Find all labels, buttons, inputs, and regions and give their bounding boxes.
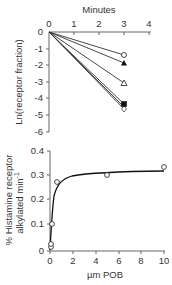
fit-curve — [50, 171, 164, 250]
bottom-x-tick: 4 — [93, 255, 98, 266]
top-y-tick: -6 — [35, 126, 43, 137]
bottom-y-tick: 0.2 — [31, 193, 44, 204]
bottom-y-tick: 0.1 — [31, 218, 44, 229]
top-x-tick: 3 — [121, 18, 126, 29]
top-y-axis-label: Ln(receptor fraction) — [13, 39, 24, 125]
svg-text:alkylated min-1: alkylated min-1 — [13, 172, 25, 234]
svg-text:% Histamine receptor: % Histamine receptor — [3, 155, 14, 246]
top-chart: Minutes 0 1 2 3 4 0 -1 -2 -3 -4 -5 -6 Ln… — [13, 4, 152, 137]
bottom-x-tick: 10 — [159, 255, 170, 266]
top-y-tick: -4 — [35, 92, 43, 103]
bottom-x-tick: 6 — [116, 255, 121, 266]
bottom-y-axis-label: % Histamine receptor alkylated min-1 — [3, 155, 25, 246]
bottom-x-tick: 8 — [138, 255, 143, 266]
open-triangle-marker — [121, 80, 127, 86]
bottom-data-points — [49, 165, 167, 250]
bottom-chart: 0.4 0.3 0.2 0.1 0 0 2 4 6 8 10 µm POB % … — [3, 145, 169, 280]
bottom-y-tick: 0.4 — [31, 145, 44, 156]
top-x-tick: 4 — [146, 18, 151, 29]
top-series-lines — [49, 32, 124, 109]
filled-triangle-marker — [121, 60, 127, 66]
bottom-x-tick: 0 — [47, 255, 52, 266]
top-x-axis-label: Minutes — [82, 4, 116, 15]
top-x-tick: 1 — [71, 18, 76, 29]
top-x-tick: 2 — [96, 18, 101, 29]
bottom-x-axis-label: µm POB — [87, 269, 123, 280]
top-y-tick: -1 — [35, 43, 43, 54]
top-y-tick: -3 — [35, 76, 43, 87]
figure: Minutes 0 1 2 3 4 0 -1 -2 -3 -4 -5 -6 Ln… — [0, 0, 172, 285]
bottom-y-tick: 0.3 — [31, 169, 44, 180]
top-y-tick: -5 — [35, 109, 43, 120]
filled-square-marker — [121, 101, 127, 107]
bottom-y-tick: 0 — [39, 245, 44, 256]
top-x-tick: 0 — [46, 18, 51, 29]
top-y-tick: 0 — [38, 26, 43, 37]
top-y-tick: -2 — [35, 59, 43, 70]
bottom-x-tick: 2 — [70, 255, 75, 266]
open-circle-marker — [122, 53, 127, 58]
